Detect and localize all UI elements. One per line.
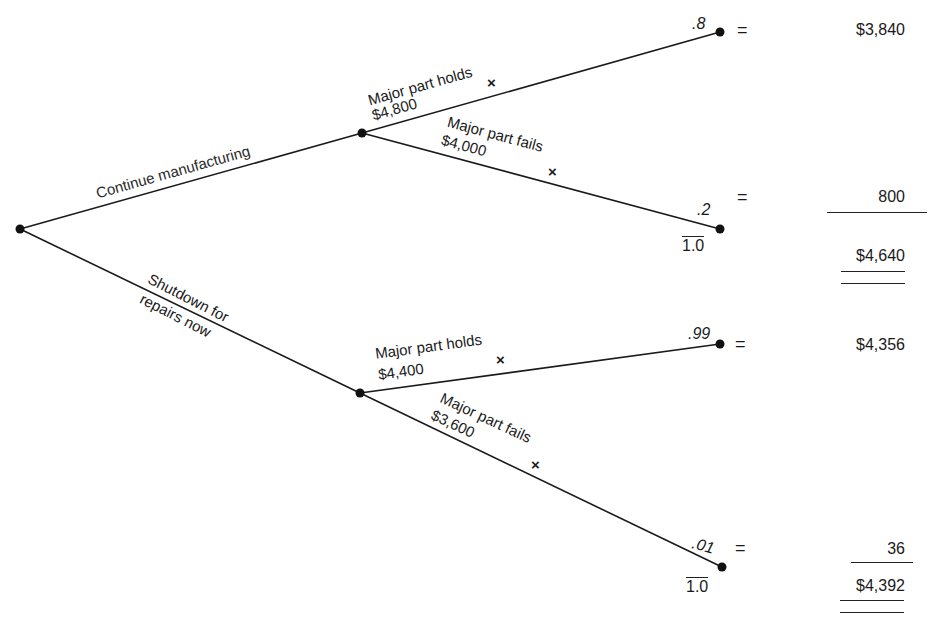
probability-total-value: 1.0	[686, 578, 708, 595]
root-node	[16, 225, 25, 234]
end-node-continue-fails	[716, 225, 725, 234]
sum-rule	[827, 212, 927, 213]
probability-shutdown-holds: .99	[688, 325, 710, 343]
equals-sign: =	[737, 187, 748, 208]
branch-shutdown-fails	[360, 393, 722, 567]
equals-sign: =	[737, 20, 748, 41]
probability-continue-fails: .2	[697, 201, 710, 219]
end-node-continue-holds	[716, 28, 725, 37]
sum-rule	[851, 562, 913, 563]
double-rule-bottom	[841, 283, 905, 284]
branch-continue-manufacturing	[20, 133, 362, 229]
equals-sign: =	[735, 334, 746, 355]
expected-continue-fails: 800	[815, 188, 905, 206]
end-node-shutdown-fails	[718, 563, 727, 572]
expected-shutdown-holds: $4,356	[815, 336, 905, 354]
double-rule-top	[841, 271, 905, 272]
probability-total-continue: 1.0	[682, 236, 704, 255]
chance-node-continue	[358, 129, 367, 138]
probability-total-shutdown: 1.0	[686, 577, 708, 596]
expected-total-continue: $4,640	[815, 247, 905, 265]
x-marker-icon: ×	[487, 74, 496, 91]
x-marker-icon: ×	[548, 163, 557, 180]
expected-continue-holds: $3,840	[815, 21, 905, 39]
end-node-shutdown-holds	[716, 340, 725, 349]
chance-node-shutdown	[356, 389, 365, 398]
equals-sign: =	[735, 538, 746, 559]
probability-total-value: 1.0	[682, 237, 704, 254]
x-marker-icon: ×	[496, 351, 505, 368]
expected-total-shutdown: $4,392	[815, 577, 905, 595]
expected-shutdown-fails: 36	[815, 540, 905, 558]
x-marker-icon: ×	[531, 456, 540, 473]
probability-continue-holds: .8	[692, 15, 705, 33]
branch-shutdown	[20, 229, 360, 393]
double-rule-top	[840, 600, 904, 601]
double-rule-bottom	[840, 612, 904, 613]
decision-tree-lines	[0, 0, 934, 620]
